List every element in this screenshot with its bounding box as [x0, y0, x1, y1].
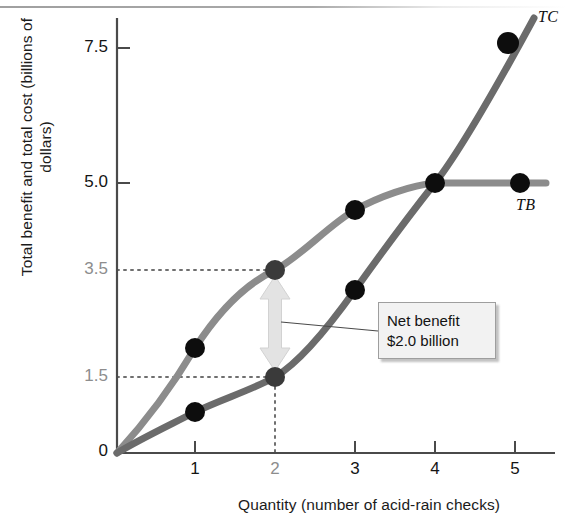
y-tick-label-5-0: 5.0 [60, 172, 108, 192]
callout-line-2: $2.0 billion [387, 331, 459, 350]
x-tick-label-1: 1 [183, 459, 207, 479]
chart-figure: Total benefit and total cost (billions o… [0, 0, 567, 529]
tb-point-q3 [345, 200, 365, 220]
net-benefit-callout: Net benefit $2.0 billion [378, 302, 496, 359]
y-tick-label-1-5: 1.5 [60, 366, 108, 386]
net-benefit-arrow [260, 276, 290, 371]
y-tick-label-7-5: 7.5 [60, 37, 108, 57]
tb-point-q5 [510, 173, 530, 193]
tc-point-q5 [497, 32, 519, 54]
x-axis-title: Quantity (number of acid-rain checks) [238, 496, 500, 514]
x-tick-label-5: 5 [503, 459, 527, 479]
y-axis-title: Total benefit and total cost (billions o… [18, 16, 56, 278]
y-tick-label-3-5: 3.5 [60, 259, 108, 279]
tc-point-q2 [265, 367, 285, 387]
y-tick-label-origin: 0 [84, 441, 108, 461]
x-tick-label-2: 2 [263, 459, 287, 479]
x-tick-label-4: 4 [423, 459, 447, 479]
tb-curve-label: TB [516, 196, 535, 214]
tb-point-q2 [265, 260, 285, 280]
callout-line-1: Net benefit [387, 311, 460, 330]
tb-point-q4 [425, 173, 445, 193]
tc-point-q1 [185, 402, 205, 422]
tc-curve-label: TC [538, 8, 558, 26]
tc-point-q3 [345, 280, 365, 300]
tb-point-q1 [185, 338, 205, 358]
x-tick-label-3: 3 [343, 459, 367, 479]
